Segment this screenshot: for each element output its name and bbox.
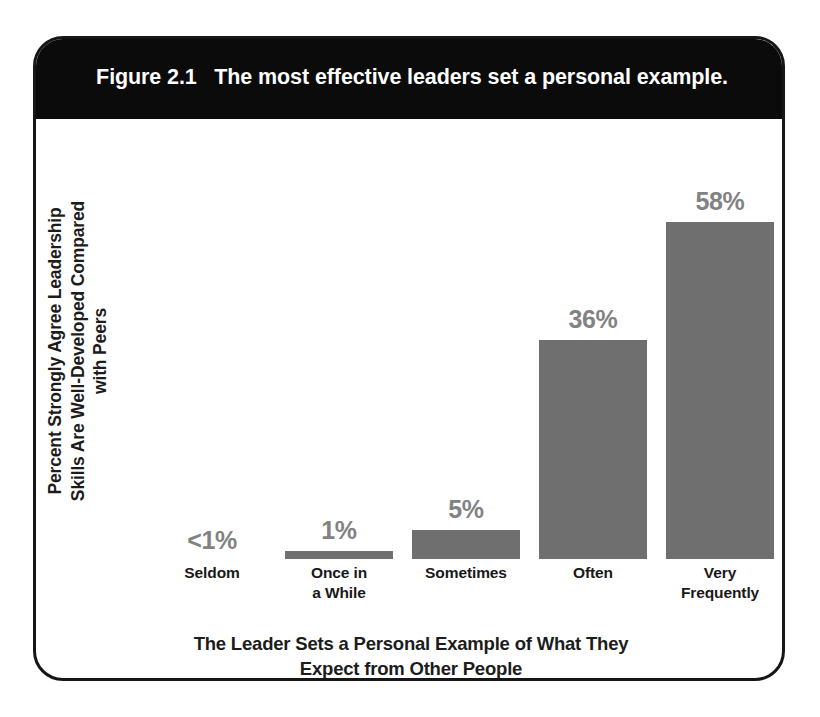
bar-rect-often[interactable] — [539, 340, 647, 559]
bar-value-label-seldom: <1% — [158, 526, 266, 555]
figure-title-banner: Figure 2.1 The most effective leaders se… — [33, 36, 785, 119]
x-tick-label-sometimes: Sometimes — [403, 563, 529, 583]
bar-slot-often: 36% — [539, 122, 647, 559]
bar-rect-seldom[interactable] — [158, 555, 266, 559]
bar-slot-very-frequently: 58% — [666, 122, 774, 559]
x-tick-label-often: Often — [530, 563, 656, 583]
bar-slot-seldom: <1% — [158, 122, 266, 559]
x-axis-label: The Leader Sets a Personal Example of Wh… — [76, 632, 746, 681]
bar-rect-sometimes[interactable] — [412, 530, 520, 559]
bar-rect-once-in-a-while[interactable] — [285, 551, 393, 559]
x-axis-tick-labels: Seldom Once in a While Sometimes Often V… — [158, 563, 774, 625]
x-tick-label-very-frequently: Very Frequently — [657, 563, 783, 603]
y-axis-label: Percent Strongly Agree Leadership Skills… — [45, 146, 111, 556]
x-tick-label-seldom: Seldom — [149, 563, 275, 583]
bar-rect-very-frequently[interactable] — [666, 222, 774, 559]
bar-series: <1% 1% 5% 36% 58% — [158, 122, 774, 559]
bar-value-label-very-frequently: 58% — [666, 187, 774, 216]
x-tick-label-once-in-a-while: Once in a While — [276, 563, 402, 603]
chart-plot-area: Percent Strongly Agree Leadership Skills… — [36, 122, 782, 681]
y-axis-label-text: Percent Strongly Agree Leadership Skills… — [44, 201, 111, 501]
bar-value-label-sometimes: 5% — [412, 495, 520, 524]
bar-value-label-once-in-a-while: 1% — [285, 516, 393, 545]
bar-value-label-often: 36% — [539, 305, 647, 334]
bar-slot-sometimes: 5% — [412, 122, 520, 559]
bar-slot-once-in-a-while: 1% — [285, 122, 393, 559]
figure-card: Figure 2.1 The most effective leaders se… — [33, 36, 785, 681]
page-title: Figure 2.1 The most effective leaders se… — [96, 65, 728, 90]
